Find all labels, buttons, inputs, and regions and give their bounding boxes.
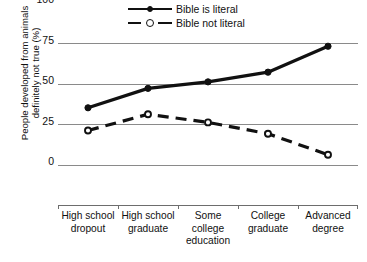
x-label-line: college xyxy=(178,223,238,236)
x-label-line: graduate xyxy=(238,223,298,236)
data-point-some-college-education xyxy=(205,119,211,125)
series-line-bible-is-literal xyxy=(88,46,328,108)
x-axis-labels: High school dropout High school graduate… xyxy=(58,210,358,248)
figure-caption-fragment xyxy=(0,256,367,262)
plot-area xyxy=(58,43,358,205)
x-label-line: College xyxy=(238,210,298,223)
data-point-college-graduate xyxy=(265,69,271,75)
series-markers-bible-not-literal xyxy=(85,111,331,158)
y-tick-label-0: 0 xyxy=(28,156,54,167)
x-axis-tick-3 xyxy=(238,205,239,209)
data-point-high-school-dropout xyxy=(85,105,91,111)
x-axis-tick-2 xyxy=(178,205,179,209)
legend-item-bible-not-literal: Bible not literal xyxy=(128,16,298,29)
x-label-line: Advanced xyxy=(298,210,358,223)
chart-figure: Bible is literal Bible not literal Peopl… xyxy=(0,0,367,262)
legend-item-bible-is-literal: Bible is literal xyxy=(128,2,298,15)
x-axis-tick-end xyxy=(357,205,358,209)
series-markers-bible-is-literal xyxy=(85,43,331,111)
data-point-some-college-education xyxy=(205,79,211,85)
legend-label-bible-not-literal: Bible not literal xyxy=(176,17,245,29)
series-canvas xyxy=(58,43,358,205)
data-point-advanced-degree xyxy=(325,43,331,49)
x-axis-tick-start xyxy=(58,205,59,209)
y-tick-label-100: 100 xyxy=(28,0,54,5)
x-tick-label-high-school-graduate: High school graduate xyxy=(118,210,178,248)
x-tick-label-high-school-dropout: High school dropout xyxy=(58,210,118,248)
x-axis-tick-4 xyxy=(298,205,299,209)
x-label-line: dropout xyxy=(58,223,118,236)
legend-swatch-solid-line-icon xyxy=(128,3,172,15)
x-axis-line xyxy=(58,205,358,206)
data-point-advanced-degree xyxy=(325,152,331,158)
y-tick-label-75: 75 xyxy=(28,35,54,46)
y-tick-label-25: 25 xyxy=(28,116,54,127)
x-label-line: degree xyxy=(298,223,358,236)
data-point-high-school-dropout xyxy=(85,127,91,133)
chart-legend: Bible is literal Bible not literal xyxy=(128,2,298,30)
x-label-line: education xyxy=(178,235,238,248)
y-tick-label-50: 50 xyxy=(28,75,54,86)
data-point-college-graduate xyxy=(265,131,271,137)
x-label-line: Some xyxy=(178,210,238,223)
legend-label-bible-is-literal: Bible is literal xyxy=(176,3,238,15)
x-label-line: High school xyxy=(58,210,118,223)
x-tick-label-college-graduate: College graduate xyxy=(238,210,298,248)
data-point-high-school-graduate xyxy=(145,85,151,91)
legend-swatch-dashed-line-icon xyxy=(128,17,172,29)
x-axis-tick-1 xyxy=(118,205,119,209)
data-point-high-school-graduate xyxy=(145,111,151,117)
x-label-line: graduate xyxy=(118,223,178,236)
x-tick-label-some-college-education: Some college education xyxy=(178,210,238,248)
x-label-line: High school xyxy=(118,210,178,223)
x-tick-label-advanced-degree: Advanced degree xyxy=(298,210,358,248)
